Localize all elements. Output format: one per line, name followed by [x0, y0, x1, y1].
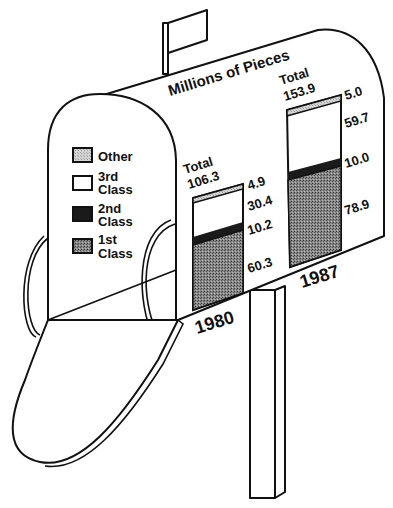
legend-swatch-2nd-class	[73, 207, 92, 221]
legend-swatch-3rd-class	[73, 176, 92, 190]
mailbox-chart-figure: Millions of Pieces Other 3rd Class 2nd C…	[0, 0, 393, 508]
legend-label-1st: 1st	[98, 232, 117, 247]
legend-swatch-1st-class	[73, 239, 92, 253]
mailbox-post	[250, 286, 285, 498]
mailbox-door	[13, 320, 178, 463]
legend-label-3rd-class: Class	[98, 182, 133, 197]
legend-label-2nd-class: Class	[98, 214, 133, 229]
bar-1987	[287, 95, 341, 267]
legend-label-1st-class: Class	[98, 246, 133, 261]
bar-1987-1st-class	[288, 166, 341, 267]
legend-swatch-other	[73, 148, 92, 162]
legend-label-other: Other	[98, 149, 133, 164]
bar-1980	[193, 184, 243, 310]
back-ring	[28, 238, 48, 335]
bar-1980-1st-class	[193, 230, 243, 310]
mailbox-chart-svg: Millions of Pieces Other 3rd Class 2nd C…	[0, 0, 393, 508]
flag	[163, 10, 207, 74]
